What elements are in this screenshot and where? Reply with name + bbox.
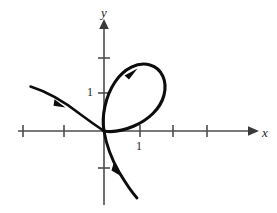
graph-figure: x y 1 1 [0, 0, 277, 213]
y-axis-label: y [101, 6, 107, 19]
plot-canvas [0, 0, 277, 213]
y-axis-arrowhead-icon [99, 19, 109, 29]
x-axis-label: x [262, 126, 268, 139]
x-axis-unit-label: 1 [136, 140, 142, 152]
curve-loop [103, 64, 165, 131]
curve-lower-right-branch [104, 131, 137, 198]
y-axis-unit-label: 1 [87, 86, 93, 98]
x-axis-arrowhead-icon [248, 126, 259, 136]
